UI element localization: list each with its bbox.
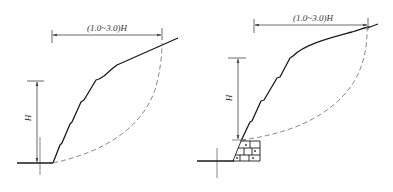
left-slope-surface — [53, 38, 178, 163]
right-width-dimension: (1.0~3.0)H — [254, 13, 368, 33]
retaining-wall — [233, 141, 260, 161]
right-height-label: H — [224, 94, 234, 102]
right-slip-surface — [241, 27, 367, 140]
right-width-label: (1.0~3.0)H — [293, 13, 333, 23]
slope-diagram-figure: (1.0~3.0)H H (1.0~3.0)H — [0, 0, 393, 192]
left-height-label: H — [23, 114, 33, 122]
right-panel: (1.0~3.0)H H — [197, 13, 378, 178]
left-slip-surface — [53, 43, 162, 163]
left-panel: (1.0~3.0)H H — [17, 23, 178, 175]
left-width-dimension: (1.0~3.0)H — [52, 23, 162, 43]
left-height-dimension: H — [23, 81, 44, 175]
right-slope-surface — [241, 24, 378, 141]
left-width-label: (1.0~3.0)H — [87, 23, 127, 33]
right-height-dimension: H — [224, 58, 246, 140]
